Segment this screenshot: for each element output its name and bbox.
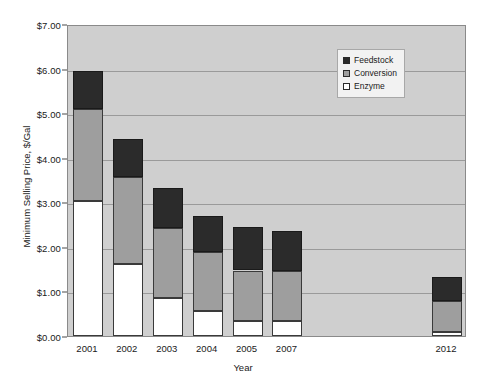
- legend-entry-conversion: Conversion: [343, 67, 397, 79]
- y-axis-tick-label: $6.00: [37, 64, 61, 75]
- bar-segment-enzyme-2003: [153, 298, 183, 336]
- bar-2002: [113, 139, 143, 336]
- bar-segment-enzyme-2001: [73, 201, 103, 336]
- y-axis-tick-label: $7.00: [37, 20, 61, 31]
- legend-swatch-icon: [343, 57, 350, 64]
- y-axis-tick-mark: [62, 247, 67, 248]
- bar-segment-feedstock-2004: [193, 216, 223, 253]
- y-axis-title: Minimum Selling Price, $/Gal: [21, 77, 32, 297]
- bar-segment-conversion-2007: [272, 271, 302, 321]
- bar-segment-feedstock-2012: [432, 277, 462, 301]
- legend-entry-enzyme: Enzyme: [343, 80, 397, 92]
- bar-2012: [432, 277, 462, 336]
- bar-segment-conversion-2003: [153, 228, 183, 298]
- bar-segment-conversion-2002: [113, 177, 143, 264]
- bar-segment-feedstock-2003: [153, 188, 183, 228]
- x-axis-tick-label-2003: 2003: [156, 343, 177, 354]
- bar-segment-enzyme-2004: [193, 311, 223, 336]
- bar-segment-conversion-2012: [432, 301, 462, 332]
- legend-label: Conversion: [354, 69, 397, 78]
- bar-segment-conversion-2004: [193, 252, 223, 311]
- bar-2001: [73, 71, 103, 336]
- bar-segment-enzyme-2012: [432, 332, 462, 336]
- legend-swatch-icon: [343, 83, 350, 90]
- bar-segment-conversion-2005: [233, 271, 263, 321]
- y-axis-tick-mark: [62, 114, 67, 115]
- bar-2003: [153, 188, 183, 336]
- gridline: [68, 71, 465, 72]
- bar-segment-enzyme-2005: [233, 321, 263, 336]
- stacked-bar-chart: $0.00$1.00$2.00$3.00$4.00$5.00$6.00$7.00…: [0, 0, 486, 389]
- bar-segment-enzyme-2007: [272, 321, 302, 336]
- x-axis-tick-label-2004: 2004: [196, 343, 217, 354]
- bar-segment-feedstock-2002: [113, 139, 143, 177]
- x-axis-title: Year: [0, 362, 486, 373]
- y-axis-tick-mark: [62, 25, 67, 26]
- legend-entry-feedstock: Feedstock: [343, 54, 397, 66]
- y-axis-tick-label: $3.00: [37, 198, 61, 209]
- y-axis-tick-label: $2.00: [37, 242, 61, 253]
- bar-segment-conversion-2001: [73, 109, 103, 202]
- x-axis-tick-label-2005: 2005: [236, 343, 257, 354]
- bar-segment-enzyme-2002: [113, 264, 143, 336]
- bar-segment-feedstock-2007: [272, 231, 302, 271]
- plot-area: [67, 25, 466, 337]
- y-axis-tick-mark: [62, 69, 67, 70]
- y-axis-tick-label: $1.00: [37, 287, 61, 298]
- y-axis-tick-label: $0.00: [37, 332, 61, 343]
- legend-label: Enzyme: [354, 82, 385, 91]
- chart-legend: FeedstockConversionEnzyme: [337, 49, 405, 98]
- gridline: [68, 115, 465, 116]
- bar-2004: [193, 216, 223, 336]
- x-axis-tick-label-2007: 2007: [276, 343, 297, 354]
- x-axis-tick-label-2001: 2001: [76, 343, 97, 354]
- bar-2007: [272, 231, 302, 336]
- bar-2005: [233, 227, 263, 336]
- x-axis-tick-label-2002: 2002: [116, 343, 137, 354]
- y-axis-tick-mark: [62, 158, 67, 159]
- y-axis-tick-mark: [62, 292, 67, 293]
- legend-swatch-icon: [343, 70, 350, 77]
- y-axis-tick-mark: [62, 337, 67, 338]
- x-axis-tick-label-2012: 2012: [435, 343, 456, 354]
- bar-segment-feedstock-2005: [233, 227, 263, 271]
- legend-label: Feedstock: [354, 56, 393, 65]
- y-axis-tick-mark: [62, 203, 67, 204]
- y-axis-tick-label: $4.00: [37, 153, 61, 164]
- y-axis-tick-label: $5.00: [37, 109, 61, 120]
- y-axis: $0.00$1.00$2.00$3.00$4.00$5.00$6.00$7.00: [0, 0, 67, 389]
- bar-segment-feedstock-2001: [73, 71, 103, 109]
